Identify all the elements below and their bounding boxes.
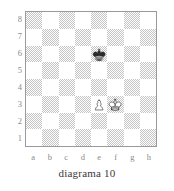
rank-label-column: 8 7 6 5 4 3 2 1 bbox=[8, 11, 23, 147]
chess-diagram-figure: 8 7 6 5 4 3 2 1 a b c d e f g bbox=[0, 0, 174, 191]
square-h5[interactable] bbox=[140, 62, 156, 79]
square-g7[interactable] bbox=[124, 29, 140, 46]
white-king-icon[interactable] bbox=[107, 96, 123, 113]
rank-label-7: 7 bbox=[8, 28, 23, 45]
rank-label-1: 1 bbox=[8, 130, 23, 147]
rank-label-8: 8 bbox=[8, 11, 23, 28]
file-label-c: c bbox=[58, 150, 75, 164]
square-b2[interactable] bbox=[42, 113, 58, 130]
square-f1[interactable] bbox=[107, 129, 123, 146]
square-e8[interactable] bbox=[91, 12, 107, 29]
rank-label-5: 5 bbox=[8, 62, 23, 79]
square-c4[interactable] bbox=[59, 79, 75, 96]
square-b8[interactable] bbox=[42, 12, 58, 29]
square-f3[interactable] bbox=[107, 96, 123, 113]
square-g5[interactable] bbox=[124, 62, 140, 79]
square-b4[interactable] bbox=[42, 79, 58, 96]
diagram-caption: diagrama 10 bbox=[0, 167, 174, 179]
square-g3[interactable] bbox=[124, 96, 140, 113]
square-e5[interactable] bbox=[91, 62, 107, 79]
square-h4[interactable] bbox=[140, 79, 156, 96]
square-e1[interactable] bbox=[91, 129, 107, 146]
square-h3[interactable] bbox=[140, 96, 156, 113]
square-e4[interactable] bbox=[91, 79, 107, 96]
square-d5[interactable] bbox=[75, 62, 91, 79]
square-a3[interactable] bbox=[26, 96, 42, 113]
square-h2[interactable] bbox=[140, 113, 156, 130]
square-h1[interactable] bbox=[140, 129, 156, 146]
file-label-f: f bbox=[108, 150, 125, 164]
square-d6[interactable] bbox=[75, 46, 91, 63]
square-c6[interactable] bbox=[59, 46, 75, 63]
square-e3[interactable] bbox=[91, 96, 107, 113]
square-g1[interactable] bbox=[124, 129, 140, 146]
white-pawn-icon[interactable] bbox=[91, 96, 107, 113]
square-f2[interactable] bbox=[107, 113, 123, 130]
square-c2[interactable] bbox=[59, 113, 75, 130]
chessboard-grid bbox=[26, 12, 156, 146]
square-c7[interactable] bbox=[59, 29, 75, 46]
file-label-row: a b c d e f g h bbox=[25, 150, 157, 164]
rank-label-4: 4 bbox=[8, 79, 23, 96]
square-a8[interactable] bbox=[26, 12, 42, 29]
square-f4[interactable] bbox=[107, 79, 123, 96]
rank-label-3: 3 bbox=[8, 96, 23, 113]
square-a6[interactable] bbox=[26, 46, 42, 63]
square-b5[interactable] bbox=[42, 62, 58, 79]
square-f8[interactable] bbox=[107, 12, 123, 29]
square-f7[interactable] bbox=[107, 29, 123, 46]
square-a2[interactable] bbox=[26, 113, 42, 130]
square-c3[interactable] bbox=[59, 96, 75, 113]
square-a7[interactable] bbox=[26, 29, 42, 46]
square-d2[interactable] bbox=[75, 113, 91, 130]
file-label-b: b bbox=[42, 150, 59, 164]
file-label-h: h bbox=[141, 150, 158, 164]
square-e2[interactable] bbox=[91, 113, 107, 130]
square-b7[interactable] bbox=[42, 29, 58, 46]
rank-label-6: 6 bbox=[8, 45, 23, 62]
square-g2[interactable] bbox=[124, 113, 140, 130]
square-a4[interactable] bbox=[26, 79, 42, 96]
square-e6[interactable] bbox=[91, 46, 107, 63]
square-g6[interactable] bbox=[124, 46, 140, 63]
square-c5[interactable] bbox=[59, 62, 75, 79]
black-king-icon[interactable] bbox=[91, 46, 107, 63]
file-label-e: e bbox=[91, 150, 108, 164]
square-a1[interactable] bbox=[26, 129, 42, 146]
square-b6[interactable] bbox=[42, 46, 58, 63]
square-a5[interactable] bbox=[26, 62, 42, 79]
square-h7[interactable] bbox=[140, 29, 156, 46]
square-e7[interactable] bbox=[91, 29, 107, 46]
square-g8[interactable] bbox=[124, 12, 140, 29]
square-d7[interactable] bbox=[75, 29, 91, 46]
chessboard-border bbox=[25, 11, 157, 147]
square-f6[interactable] bbox=[107, 46, 123, 63]
square-b1[interactable] bbox=[42, 129, 58, 146]
square-d3[interactable] bbox=[75, 96, 91, 113]
square-h6[interactable] bbox=[140, 46, 156, 63]
file-label-a: a bbox=[25, 150, 42, 164]
square-b3[interactable] bbox=[42, 96, 58, 113]
square-c1[interactable] bbox=[59, 129, 75, 146]
square-d1[interactable] bbox=[75, 129, 91, 146]
file-label-d: d bbox=[75, 150, 92, 164]
square-f5[interactable] bbox=[107, 62, 123, 79]
rank-label-2: 2 bbox=[8, 113, 23, 130]
square-h8[interactable] bbox=[140, 12, 156, 29]
square-d4[interactable] bbox=[75, 79, 91, 96]
file-label-g: g bbox=[124, 150, 141, 164]
square-d8[interactable] bbox=[75, 12, 91, 29]
square-g4[interactable] bbox=[124, 79, 140, 96]
square-c8[interactable] bbox=[59, 12, 75, 29]
